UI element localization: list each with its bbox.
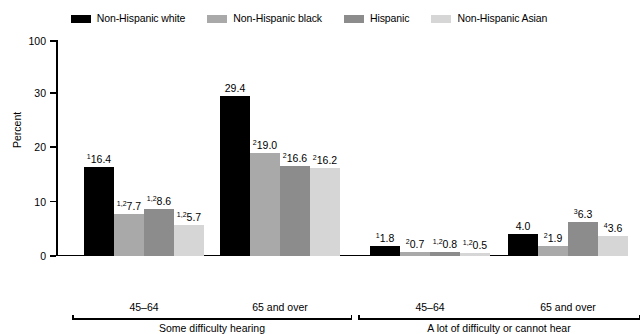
legend-item: Hispanic: [344, 13, 409, 24]
legend-item: Non-Hispanic white: [71, 13, 186, 24]
y-axis-tick-label: 100: [28, 36, 46, 47]
group-label: A lot of difficulty or cannot hear: [427, 323, 570, 334]
bar-value-number: 0.8: [443, 238, 458, 250]
bar-value-label: 43.6: [604, 223, 623, 234]
group-bracket: [358, 318, 640, 320]
legend-label: Non-Hispanic Asian: [457, 13, 547, 24]
y-axis-tick: 0: [50, 255, 56, 257]
bar-value-label: 1,25.7: [177, 212, 201, 223]
age-group-label: 45–64: [415, 302, 444, 313]
age-group-label: 45–64: [129, 302, 158, 313]
y-axis-tick: 100: [50, 40, 56, 42]
bar-value-number: 5.7: [187, 211, 202, 223]
bar-value-number: 0.7: [410, 238, 425, 250]
bar-value-label: 1,28.6: [147, 196, 171, 207]
bar-value-footnote: 1,2: [147, 195, 157, 202]
legend-label: Non-Hispanic black: [233, 13, 322, 24]
bar: 1,28.6: [144, 209, 174, 256]
bar-value-number: 16.6: [287, 152, 307, 164]
bar: 36.3: [568, 222, 598, 256]
legend-swatch-icon: [207, 15, 227, 23]
bar-value-label: 21.9: [544, 233, 563, 244]
y-axis-tick: 30: [50, 92, 56, 94]
bar-value-footnote: 1,2: [117, 200, 127, 207]
bar: 216.2: [310, 168, 340, 256]
y-axis-tick: 10: [50, 201, 56, 203]
y-axis-title: Percent: [12, 112, 23, 148]
bar: 11.8: [370, 246, 400, 256]
y-axis-line: [56, 40, 58, 256]
bar: 216.6: [280, 166, 310, 256]
bar: 4.0: [508, 234, 538, 256]
bar-value-label: 36.3: [574, 209, 593, 220]
bar-value-label: 1,27.7: [117, 201, 141, 212]
bar: 43.6: [598, 236, 628, 256]
bar-value-number: 29.4: [225, 82, 245, 94]
bar: 1,20.5: [460, 253, 490, 256]
bar: 1,25.7: [174, 225, 204, 256]
legend-label: Non-Hispanic white: [97, 13, 186, 24]
legend-label: Hispanic: [370, 13, 409, 24]
bar-value-number: 6.3: [578, 208, 593, 220]
legend-item: Non-Hispanic Asian: [431, 13, 547, 24]
bar-value-number: 3.6: [608, 222, 623, 234]
bar-value-label: 4.0: [516, 221, 531, 232]
bar: 1,20.8: [430, 252, 460, 256]
bar-value-number: 1.8: [380, 232, 395, 244]
bar-value-label: 216.6: [283, 153, 307, 164]
bar-value-label: 1,20.5: [463, 240, 487, 251]
bar-value-number: 19.0: [257, 139, 277, 151]
bar-value-label: 11.8: [376, 233, 395, 244]
legend-swatch-icon: [431, 15, 451, 23]
y-axis-tick-label: 20: [34, 142, 46, 153]
bar: 20.7: [400, 252, 430, 256]
legend-swatch-icon: [344, 15, 364, 23]
legend-swatch-icon: [71, 15, 91, 23]
bar-value-footnote: 1,2: [177, 211, 187, 218]
bar-value-number: 8.6: [157, 195, 172, 207]
bar-value-footnote: 1,2: [463, 239, 473, 246]
bar-value-number: 0.5: [473, 239, 488, 251]
bar-value-number: 7.7: [127, 200, 142, 212]
bar-value-label: 1,20.8: [433, 239, 457, 250]
age-group-label: 65 and over: [540, 302, 595, 313]
bar-value-label: 216.2: [313, 155, 337, 166]
group-bracket: [72, 318, 352, 320]
bar-value-number: 1.9: [548, 232, 563, 244]
y-axis-tick: 20: [50, 146, 56, 148]
y-axis-tick-label: 10: [34, 196, 46, 207]
bar-value-footnote: 1,2: [433, 237, 443, 244]
bar-value-label: 219.0: [253, 140, 277, 151]
bar-value-number: 4.0: [516, 220, 531, 232]
group-label: Some difficulty hearing: [159, 323, 265, 334]
plot-area: 1003020100 116.41,27.71,28.61,25.729.421…: [56, 40, 606, 256]
bar: 219.0: [250, 153, 280, 256]
y-axis-tick-label: 0: [40, 251, 46, 262]
bar: 1,27.7: [114, 214, 144, 256]
bar: 116.4: [84, 167, 114, 256]
bar: 29.4: [220, 96, 250, 256]
bar-value-label: 20.7: [406, 239, 425, 250]
y-axis-tick-label: 30: [34, 88, 46, 99]
bar: 21.9: [538, 246, 568, 256]
bar-value-number: 16.4: [91, 153, 111, 165]
legend-item: Non-Hispanic black: [207, 13, 322, 24]
bar-value-label: 29.4: [225, 83, 245, 94]
bar-value-number: 16.2: [317, 154, 337, 166]
bar-value-label: 116.4: [87, 154, 111, 165]
chart-legend: Non-Hispanic whiteNon-Hispanic blackHisp…: [0, 13, 618, 24]
age-group-label: 65 and over: [252, 302, 307, 313]
